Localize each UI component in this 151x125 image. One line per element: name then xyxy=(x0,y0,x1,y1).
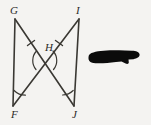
segment-IJ xyxy=(74,19,79,106)
angle-arcs xyxy=(14,51,73,95)
redaction-mark-shape xyxy=(88,50,139,64)
vertex-label-J: J xyxy=(72,109,77,120)
redaction-blob xyxy=(88,49,140,68)
vertex-label-I: I xyxy=(76,5,80,16)
geometry-figure-screenshot: G I H F J xyxy=(0,0,151,125)
segment-GF xyxy=(13,19,15,106)
vertex-label-F: F xyxy=(11,109,18,120)
vertex-label-H: H xyxy=(45,42,53,53)
angle-arc-H-left-icon xyxy=(33,51,37,70)
vertex-label-G: G xyxy=(10,5,18,16)
